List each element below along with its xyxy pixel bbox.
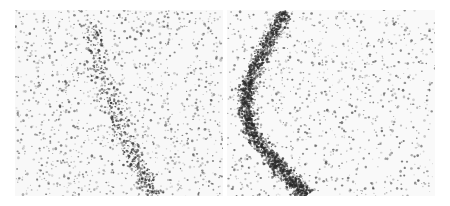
tissue-texture-left xyxy=(15,10,223,196)
micrograph-panel-left xyxy=(15,10,223,196)
micrograph-panel-right xyxy=(227,10,435,196)
tissue-texture-right xyxy=(227,10,435,196)
